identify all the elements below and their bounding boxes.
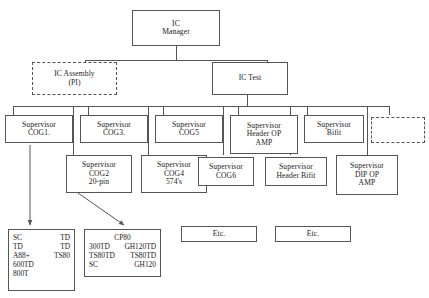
detail-row: A88+ TS80 [13,251,70,260]
org-chart-diagram: IC Manager IC Assembly (PI) IC Test Supe… [0,0,429,298]
etc-box-1-label: Etc. [213,230,225,239]
connector-bus-to-cog5 [163,106,164,115]
detail-box-header: CP80 [89,233,156,242]
connector-bus-to-cog6 [223,106,224,155]
node-supervisor-cog2-line3: 20-pin [89,178,109,187]
connector-bus-to-header-op-amp [238,106,239,115]
detail-cell: TD [60,242,70,251]
node-ic-test-line1: IC Test [239,74,262,83]
node-supervisor-header-op-amp-line3: AMP [256,139,273,148]
node-supervisor-cog1-line2: COG1. [28,129,50,138]
detail-box-cog2-parts[interactable]: CP80 300TD GH120TD TS80TD TS80TD SC GH12… [84,229,161,277]
etc-box-2-label: Etc. [307,230,319,239]
node-supervisor-cog2[interactable]: Supervisor COG2 20-pin [66,155,132,193]
connector-bus-to-placeholder [389,106,390,115]
node-ic-assembly-line2: (PI) [68,79,80,88]
connector-bus-to-cog3 [88,106,89,115]
node-placeholder-empty[interactable] [371,117,425,143]
connector-manager-stem [176,46,177,60]
node-ic-assembly[interactable]: IC Assembly (PI) [32,62,117,95]
node-ic-manager-line2: Manager [162,28,190,37]
node-supervisor-cog5-line2: COG5 [179,129,199,138]
node-supervisor-header-bifit[interactable]: Supervisor Header Bifit [265,157,327,186]
detail-row: 800T [13,269,70,278]
node-supervisor-dip-op-amp-line3: AMP [359,179,376,188]
detail-cell: 800T [13,269,29,278]
connector-bus-to-cog4 [148,106,149,155]
detail-cell: TS80 [54,251,70,260]
detail-cell: TS80TD [130,251,156,260]
detail-cell: GH120 [134,260,156,269]
detail-cell: TD [60,233,70,242]
node-supervisor-cog3[interactable]: Supervisor COG3. [80,115,148,143]
detail-cell: 600TD [13,260,34,269]
node-supervisor-cog3-line2: COG3. [103,129,125,138]
node-supervisor-cog6-line2: COG6 [216,172,236,181]
node-supervisor-cog6[interactable]: Supervisor COG6 [198,157,254,186]
arrow-cog2-to-detail-2 [78,193,124,225]
etc-box-2[interactable]: Etc. [275,226,351,242]
detail-cell: A88+ [13,251,30,260]
etc-box-1[interactable]: Etc. [181,226,257,242]
node-ic-test[interactable]: IC Test [212,62,288,95]
node-supervisor-header-op-amp[interactable]: Supervisor Header OP AMP [230,115,298,154]
detail-cell: 300TD [89,242,110,251]
detail-row: SC GH120 [89,260,156,269]
node-supervisor-cog5[interactable]: Supervisor COG5 [155,115,223,143]
detail-row: 600TD [13,260,70,269]
node-supervisor-bifit[interactable]: Supervisor Bifit [304,115,364,143]
detail-row: TS80TD TS80TD [89,251,156,260]
detail-cell: SC [13,233,22,242]
node-ic-manager[interactable]: IC Manager [132,10,220,46]
node-supervisor-dip-op-amp[interactable]: Supervisor DIP OP AMP [336,155,398,195]
detail-row: TD TD [13,242,70,251]
connector-ic-test-stem [247,95,248,106]
detail-cell: GH120TD [124,242,156,251]
detail-row: SC TD [13,233,70,242]
connector-bus-to-dip-op-amp [367,106,368,155]
node-supervisor-bifit-line2: Bifit [327,129,341,138]
detail-cell: TS80TD [89,251,115,260]
connector-manager-bus [85,60,267,61]
detail-cell: SC [89,260,98,269]
detail-cell: TD [13,242,23,251]
node-supervisor-header-bifit-line2: Header Bifit [277,172,316,181]
connector-bus-to-cog1 [13,106,14,115]
node-supervisor-cog4-line3: 574's [166,178,182,187]
node-supervisor-cog1[interactable]: Supervisor COG1. [5,115,73,143]
connector-supervisor-bus [13,106,390,107]
connector-bus-to-cog2 [73,106,74,155]
detail-box-cog1-parts[interactable]: SC TD TD TD A88+ TS80 600TD 800T [8,229,75,291]
connector-bus-to-bifit [307,106,308,115]
detail-row: 300TD GH120TD [89,242,156,251]
